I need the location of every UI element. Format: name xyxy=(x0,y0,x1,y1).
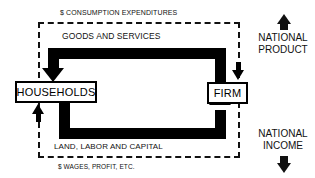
arrow-into-households-icon xyxy=(42,68,64,82)
land-labor-capital-label: LAND, LABOR AND CAPITAL xyxy=(54,142,163,151)
national-product-line2: PRODUCT xyxy=(250,44,315,56)
money-into-firm-arrow-icon xyxy=(232,70,244,80)
wages-profit-label: $ WAGES, PROFIT, ETC. xyxy=(58,163,135,170)
consumption-expenditures-label: $ CONSUMPTION EXPENDITURES xyxy=(60,9,177,16)
goods-and-services-label: GOODS AND SERVICES xyxy=(62,31,160,41)
land-labor-capital-flow-right-turn xyxy=(215,110,226,139)
households-node: HOUSEHOLDS xyxy=(15,81,97,103)
national-income-annotation: NATIONAL INCOME xyxy=(250,128,315,152)
goods-and-services-flow-bar xyxy=(48,48,226,59)
national-product-up-arrow-stem xyxy=(280,23,288,30)
national-income-line2: INCOME xyxy=(250,140,315,152)
circular-flow-diagram: HOUSEHOLDS FIRM $ CONSUMPTION EXPENDITUR… xyxy=(0,0,315,178)
national-income-down-arrow-icon xyxy=(277,163,291,173)
national-product-line1: NATIONAL xyxy=(250,32,315,44)
land-labor-capital-flow-bar xyxy=(59,128,226,139)
national-income-line1: NATIONAL xyxy=(250,128,315,140)
land-labor-capital-flow-left-turn xyxy=(59,103,70,139)
firm-node: FIRM xyxy=(207,82,248,104)
money-into-households-arrow-icon xyxy=(32,104,44,114)
national-product-annotation: NATIONAL PRODUCT xyxy=(250,32,315,56)
goods-and-services-flow-right-turn xyxy=(215,48,226,82)
